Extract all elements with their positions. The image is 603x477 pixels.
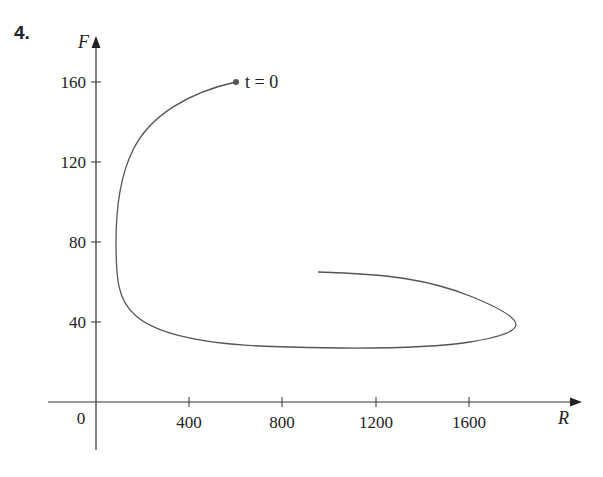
x-tick-label: 1600 xyxy=(452,413,486,432)
y-tick-label: 160 xyxy=(61,73,87,92)
problem-number: 4. xyxy=(14,22,30,44)
x-axis-label: R xyxy=(557,408,569,428)
figure: 4. 400 800 1200 1600 160 120 80 40 0 xyxy=(0,0,603,477)
y-tick-label: 40 xyxy=(69,313,86,332)
y-axis-arrow-icon xyxy=(92,36,101,48)
y-tick-label: 120 xyxy=(61,153,87,172)
y-tick-label: 80 xyxy=(69,233,86,252)
x-tick-label: 400 xyxy=(176,413,202,432)
origin-label: 0 xyxy=(77,409,86,428)
start-annotation: t = 0 xyxy=(245,72,278,92)
trajectory-curve xyxy=(116,82,516,348)
x-tick-label: 800 xyxy=(269,413,295,432)
chart: 400 800 1200 1600 160 120 80 40 0 F R t … xyxy=(0,0,603,477)
x-axis-arrow-icon xyxy=(570,398,582,407)
start-point xyxy=(233,79,239,85)
x-tick-label: 1200 xyxy=(359,413,393,432)
y-axis-label: F xyxy=(77,32,90,52)
